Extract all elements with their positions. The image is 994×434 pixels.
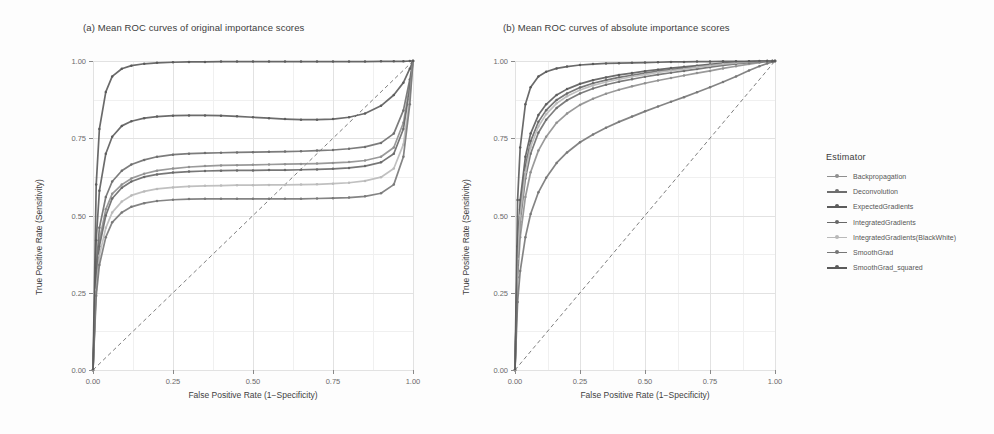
series-point: [188, 152, 191, 155]
series-point: [545, 118, 548, 121]
series-point: [537, 121, 540, 124]
x-tick: [710, 370, 711, 374]
series-point: [545, 113, 548, 116]
x-tick-label: 1.00: [406, 377, 421, 386]
series-point: [696, 72, 699, 75]
series-point: [618, 62, 621, 65]
series-point: [220, 114, 223, 117]
legend-item[interactable]: ExpectedGradients: [826, 199, 992, 214]
legend-item-label: IntegratedGradients: [853, 219, 916, 226]
series-point: [105, 214, 108, 217]
series-point: [670, 71, 673, 74]
series-point: [332, 149, 335, 152]
series-point: [95, 183, 98, 186]
series-point: [524, 156, 527, 159]
series-point: [98, 128, 101, 131]
series-point: [409, 103, 412, 106]
series-point: [537, 191, 540, 194]
legend-item[interactable]: IntegratedGradients: [826, 215, 992, 230]
series-point: [348, 60, 351, 63]
series-point: [156, 115, 159, 118]
series-point: [143, 173, 146, 176]
series-point: [332, 168, 335, 171]
series-point: [657, 71, 660, 74]
y-tick: [511, 61, 515, 62]
series-point: [188, 61, 191, 64]
series-point: [409, 67, 412, 70]
series-point: [204, 165, 207, 168]
x-tick: [333, 370, 334, 374]
legend-item[interactable]: Backpropagation: [826, 169, 992, 184]
series-point: [409, 60, 412, 63]
y-tick: [511, 138, 515, 139]
series-point: [204, 185, 207, 188]
legend-item[interactable]: SmoothGrad_squared: [826, 260, 992, 275]
y-tick: [511, 370, 515, 371]
series-point: [696, 66, 699, 69]
series-point: [364, 60, 367, 63]
series-point: [579, 104, 582, 107]
series-point: [220, 184, 223, 187]
series-point: [529, 171, 532, 174]
series-point: [592, 63, 595, 65]
series-point: [722, 67, 725, 70]
series-point: [252, 60, 255, 63]
series-point: [220, 164, 223, 167]
series-point: [722, 81, 725, 84]
series-point: [220, 169, 223, 172]
legend-item[interactable]: IntegratedGradients(BlackWhite): [826, 230, 992, 245]
roc-figure: (a) Mean ROC curves of original importan…: [0, 0, 994, 434]
series-point: [631, 78, 634, 81]
series-point: [657, 61, 660, 64]
series-point: [98, 190, 101, 193]
series-point: [316, 197, 319, 200]
series-point: [380, 142, 383, 145]
series-point: [188, 170, 191, 173]
legend-swatch-icon: [826, 186, 848, 197]
series-point: [204, 170, 207, 173]
series-point: [300, 183, 303, 186]
series-point: [579, 141, 582, 144]
series-point: [111, 180, 114, 183]
series-point: [143, 159, 146, 162]
series-point: [364, 112, 367, 115]
series-point: [380, 60, 383, 63]
series-point: [709, 86, 712, 89]
x-tick-label: 0.50: [246, 377, 261, 386]
series-point: [130, 180, 133, 183]
series-point: [748, 60, 751, 63]
series-point: [758, 60, 761, 63]
series-point: [402, 156, 405, 159]
series-point: [545, 71, 548, 74]
series-point: [268, 169, 271, 172]
series-point: [236, 169, 239, 172]
series-point: [121, 67, 124, 70]
series-point: [545, 177, 548, 180]
series-point: [529, 146, 532, 149]
panel-b-ylabel: True Positive Rate (Sensitivity): [461, 179, 471, 295]
y-tick-label: 0.75: [482, 134, 508, 143]
series-point: [592, 97, 595, 100]
legend-swatch-icon: [826, 171, 848, 182]
series-point: [348, 167, 351, 170]
series-point: [683, 68, 686, 71]
series-point: [121, 211, 124, 214]
series-point: [332, 162, 335, 165]
panel-a: (a) Mean ROC curves of original importan…: [0, 0, 470, 434]
series-point: [579, 64, 582, 67]
series-point: [709, 60, 712, 63]
series-point: [566, 112, 569, 115]
series-point: [555, 94, 558, 97]
series-point: [364, 159, 367, 162]
panel-a-ylabel: True Positive Rate (Sensitivity): [34, 179, 44, 295]
series-point: [98, 245, 101, 248]
legend-item[interactable]: SmoothGrad: [826, 245, 992, 260]
series-point: [172, 167, 175, 170]
series-point: [156, 156, 159, 159]
legend-item[interactable]: Deconvolution: [826, 184, 992, 199]
series-point: [657, 105, 660, 108]
y-tick-label: 0.25: [482, 288, 508, 297]
series-point: [332, 197, 335, 200]
legend-title: Estimator: [826, 152, 992, 162]
series-point: [618, 121, 621, 124]
